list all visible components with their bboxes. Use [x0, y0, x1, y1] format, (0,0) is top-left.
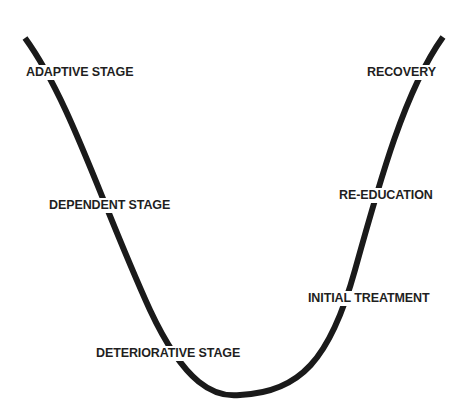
- label-deteriorative-stage: DETERIORATIVE STAGE: [95, 346, 241, 361]
- label-re-education: RE-EDUCATION: [338, 188, 434, 203]
- stage-curve: [25, 37, 443, 395]
- label-adaptive-stage: ADAPTIVE STAGE: [25, 65, 134, 80]
- label-dependent-stage: DEPENDENT STAGE: [48, 198, 171, 213]
- label-recovery: RECOVERY: [366, 65, 437, 80]
- label-initial-treatment: INITIAL TREATMENT: [307, 291, 430, 306]
